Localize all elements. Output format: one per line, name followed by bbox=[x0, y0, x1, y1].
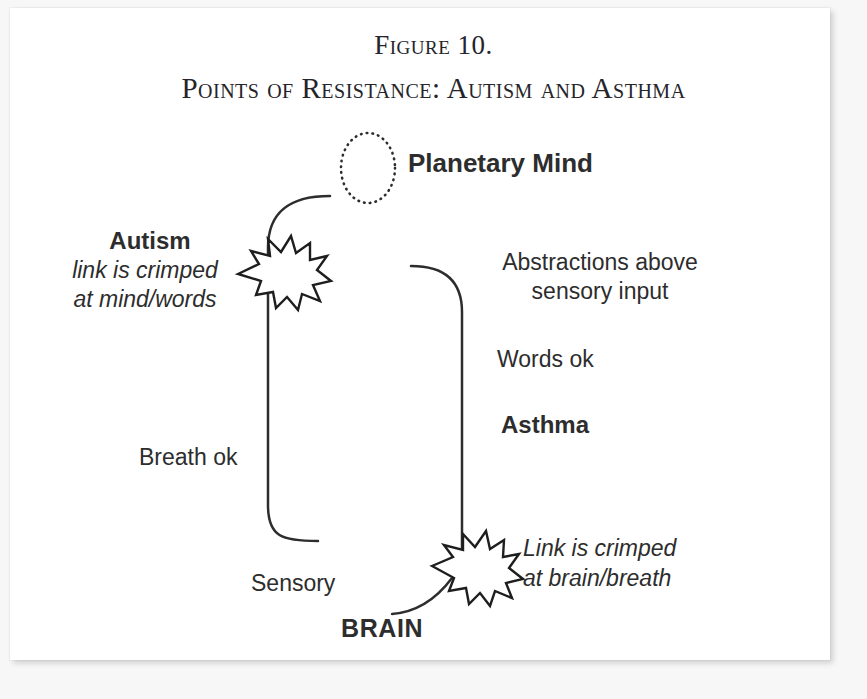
words-ok-label: Words ok bbox=[497, 345, 594, 374]
autism-heading: Autism bbox=[30, 226, 270, 256]
sensory-label: Sensory bbox=[251, 569, 335, 598]
breath-ok-label: Breath ok bbox=[139, 443, 237, 472]
right-branch-line bbox=[411, 266, 462, 572]
brain-connector-line bbox=[392, 578, 452, 614]
asthma-heading: Asthma bbox=[501, 410, 589, 440]
autism-note: link is crimped at mind/words bbox=[20, 256, 270, 313]
planetary-mind-ellipse bbox=[341, 133, 395, 203]
planetary-mind-label: Planetary Mind bbox=[408, 147, 593, 179]
figure-page: Figure 10. Points of Resistance: Autism … bbox=[0, 0, 867, 699]
diagram-canvas bbox=[0, 0, 867, 699]
brain-label: BRAIN bbox=[341, 613, 423, 644]
asthma-note: Link is crimped at brain/breath bbox=[523, 534, 676, 594]
asthma-break-starburst bbox=[432, 531, 523, 606]
abstractions-label: Abstractions above sensory input bbox=[470, 248, 730, 305]
